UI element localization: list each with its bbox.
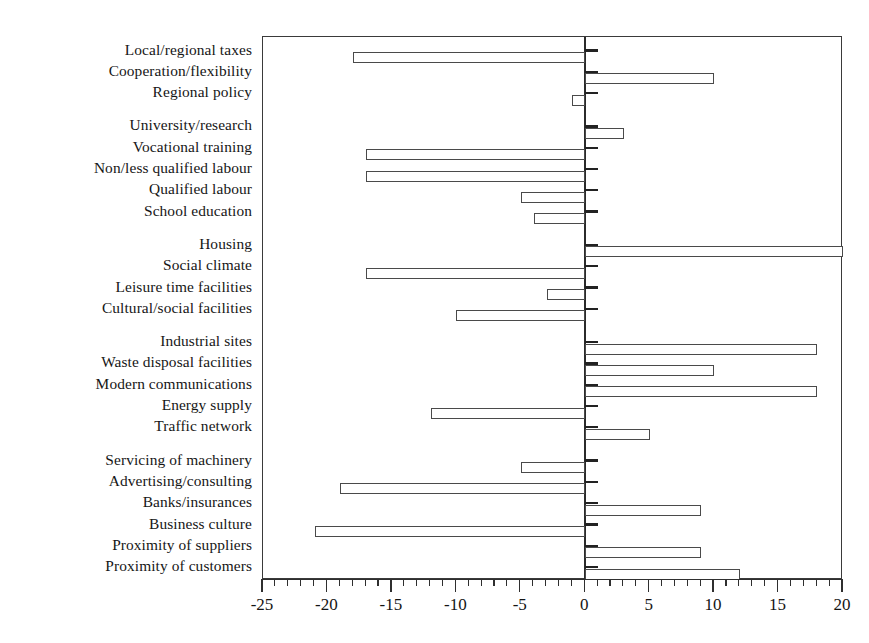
x-tick-minor — [287, 579, 288, 586]
bar — [521, 192, 585, 203]
category-label: School education — [0, 203, 252, 218]
x-tick-minor — [481, 579, 482, 586]
x-tick-minor — [725, 579, 726, 586]
x-tick-minor — [803, 579, 804, 586]
category-label: Energy supply — [0, 397, 252, 412]
bar — [585, 547, 701, 558]
x-tick-minor — [687, 579, 688, 586]
category-label: Modern communications — [0, 376, 252, 391]
x-tick-minor — [609, 579, 610, 586]
bar — [585, 344, 817, 355]
bar — [547, 289, 586, 300]
category-label: Cooperation/flexibility — [0, 63, 252, 78]
bar — [585, 569, 740, 580]
x-axis: -25-20-15-10-505101520 — [262, 579, 842, 643]
x-tick-minor — [365, 579, 366, 586]
category-label: Banks/insurances — [0, 494, 252, 509]
category-label: Non/less qualified labour — [0, 160, 252, 175]
x-tick-minor — [816, 579, 817, 586]
category-label: Social climate — [0, 257, 252, 272]
horizontal-bar-chart: Local/regional taxesCooperation/flexibil… — [0, 0, 869, 643]
x-tick-minor — [622, 579, 623, 586]
x-tick-major — [841, 579, 842, 592]
x-tick-major — [648, 579, 649, 592]
x-tick-minor — [416, 579, 417, 586]
category-label: Traffic network — [0, 418, 252, 433]
x-tick-minor — [571, 579, 572, 586]
category-label: Qualified labour — [0, 181, 252, 196]
x-tick-major — [777, 579, 778, 592]
bar — [585, 246, 843, 257]
x-tick-major — [584, 579, 585, 592]
category-tick — [585, 265, 598, 267]
bar — [456, 310, 585, 321]
x-tick-minor — [790, 579, 791, 586]
x-tick-minor — [493, 579, 494, 586]
x-tick-label: 15 — [748, 595, 808, 615]
bar — [572, 95, 585, 106]
bar — [585, 505, 701, 516]
category-label-column: Local/regional taxesCooperation/flexibil… — [0, 0, 252, 643]
x-tick-minor — [506, 579, 507, 586]
x-tick-major — [455, 579, 456, 592]
category-label: Vocational training — [0, 139, 252, 154]
x-tick-minor — [700, 579, 701, 586]
x-tick-label: 5 — [619, 595, 679, 615]
bar — [521, 462, 585, 473]
category-tick — [585, 481, 598, 483]
category-label: Advertising/consulting — [0, 473, 252, 488]
category-label: University/research — [0, 117, 252, 132]
x-tick-label: -15 — [361, 595, 421, 615]
x-tick-minor — [829, 579, 830, 586]
x-tick-minor — [661, 579, 662, 586]
x-tick-minor — [274, 579, 275, 586]
bar — [534, 213, 586, 224]
x-tick-minor — [442, 579, 443, 586]
x-tick-minor — [532, 579, 533, 586]
category-label: Leisure time facilities — [0, 279, 252, 294]
category-tick — [585, 405, 598, 407]
bar — [585, 429, 649, 440]
bar — [585, 365, 714, 376]
x-tick-label: -5 — [490, 595, 550, 615]
category-tick — [585, 286, 598, 288]
category-label: Proximity of customers — [0, 558, 252, 573]
category-tick — [585, 92, 598, 94]
x-tick-minor — [300, 579, 301, 586]
x-tick-minor — [674, 579, 675, 586]
category-tick — [585, 210, 598, 212]
x-tick-label: -25 — [232, 595, 292, 615]
bar — [340, 483, 585, 494]
bar — [431, 408, 586, 419]
x-tick-minor — [764, 579, 765, 586]
category-tick — [585, 459, 598, 461]
x-tick-label: 10 — [683, 595, 743, 615]
category-label: Regional policy — [0, 84, 252, 99]
bar — [366, 171, 585, 182]
category-tick — [585, 147, 598, 149]
x-tick-label: -20 — [296, 595, 356, 615]
x-tick-minor — [545, 579, 546, 586]
category-label: Cultural/social facilities — [0, 300, 252, 315]
category-label: Waste disposal facilities — [0, 354, 252, 369]
x-tick-major — [712, 579, 713, 592]
bar — [366, 149, 585, 160]
x-tick-minor — [597, 579, 598, 586]
category-label: Servicing of machinery — [0, 452, 252, 467]
plot-area — [262, 36, 842, 579]
category-label: Housing — [0, 236, 252, 251]
x-tick-major — [261, 579, 262, 592]
x-axis-line — [262, 579, 842, 580]
bar — [366, 268, 585, 279]
x-tick-label: -10 — [425, 595, 485, 615]
category-label: Industrial sites — [0, 333, 252, 348]
x-tick-major — [326, 579, 327, 592]
x-tick-major — [519, 579, 520, 592]
x-tick-minor — [377, 579, 378, 586]
category-tick — [585, 523, 598, 525]
x-tick-minor — [635, 579, 636, 586]
bar — [585, 128, 624, 139]
x-tick-minor — [558, 579, 559, 586]
bar — [315, 526, 586, 537]
category-tick — [585, 189, 598, 191]
